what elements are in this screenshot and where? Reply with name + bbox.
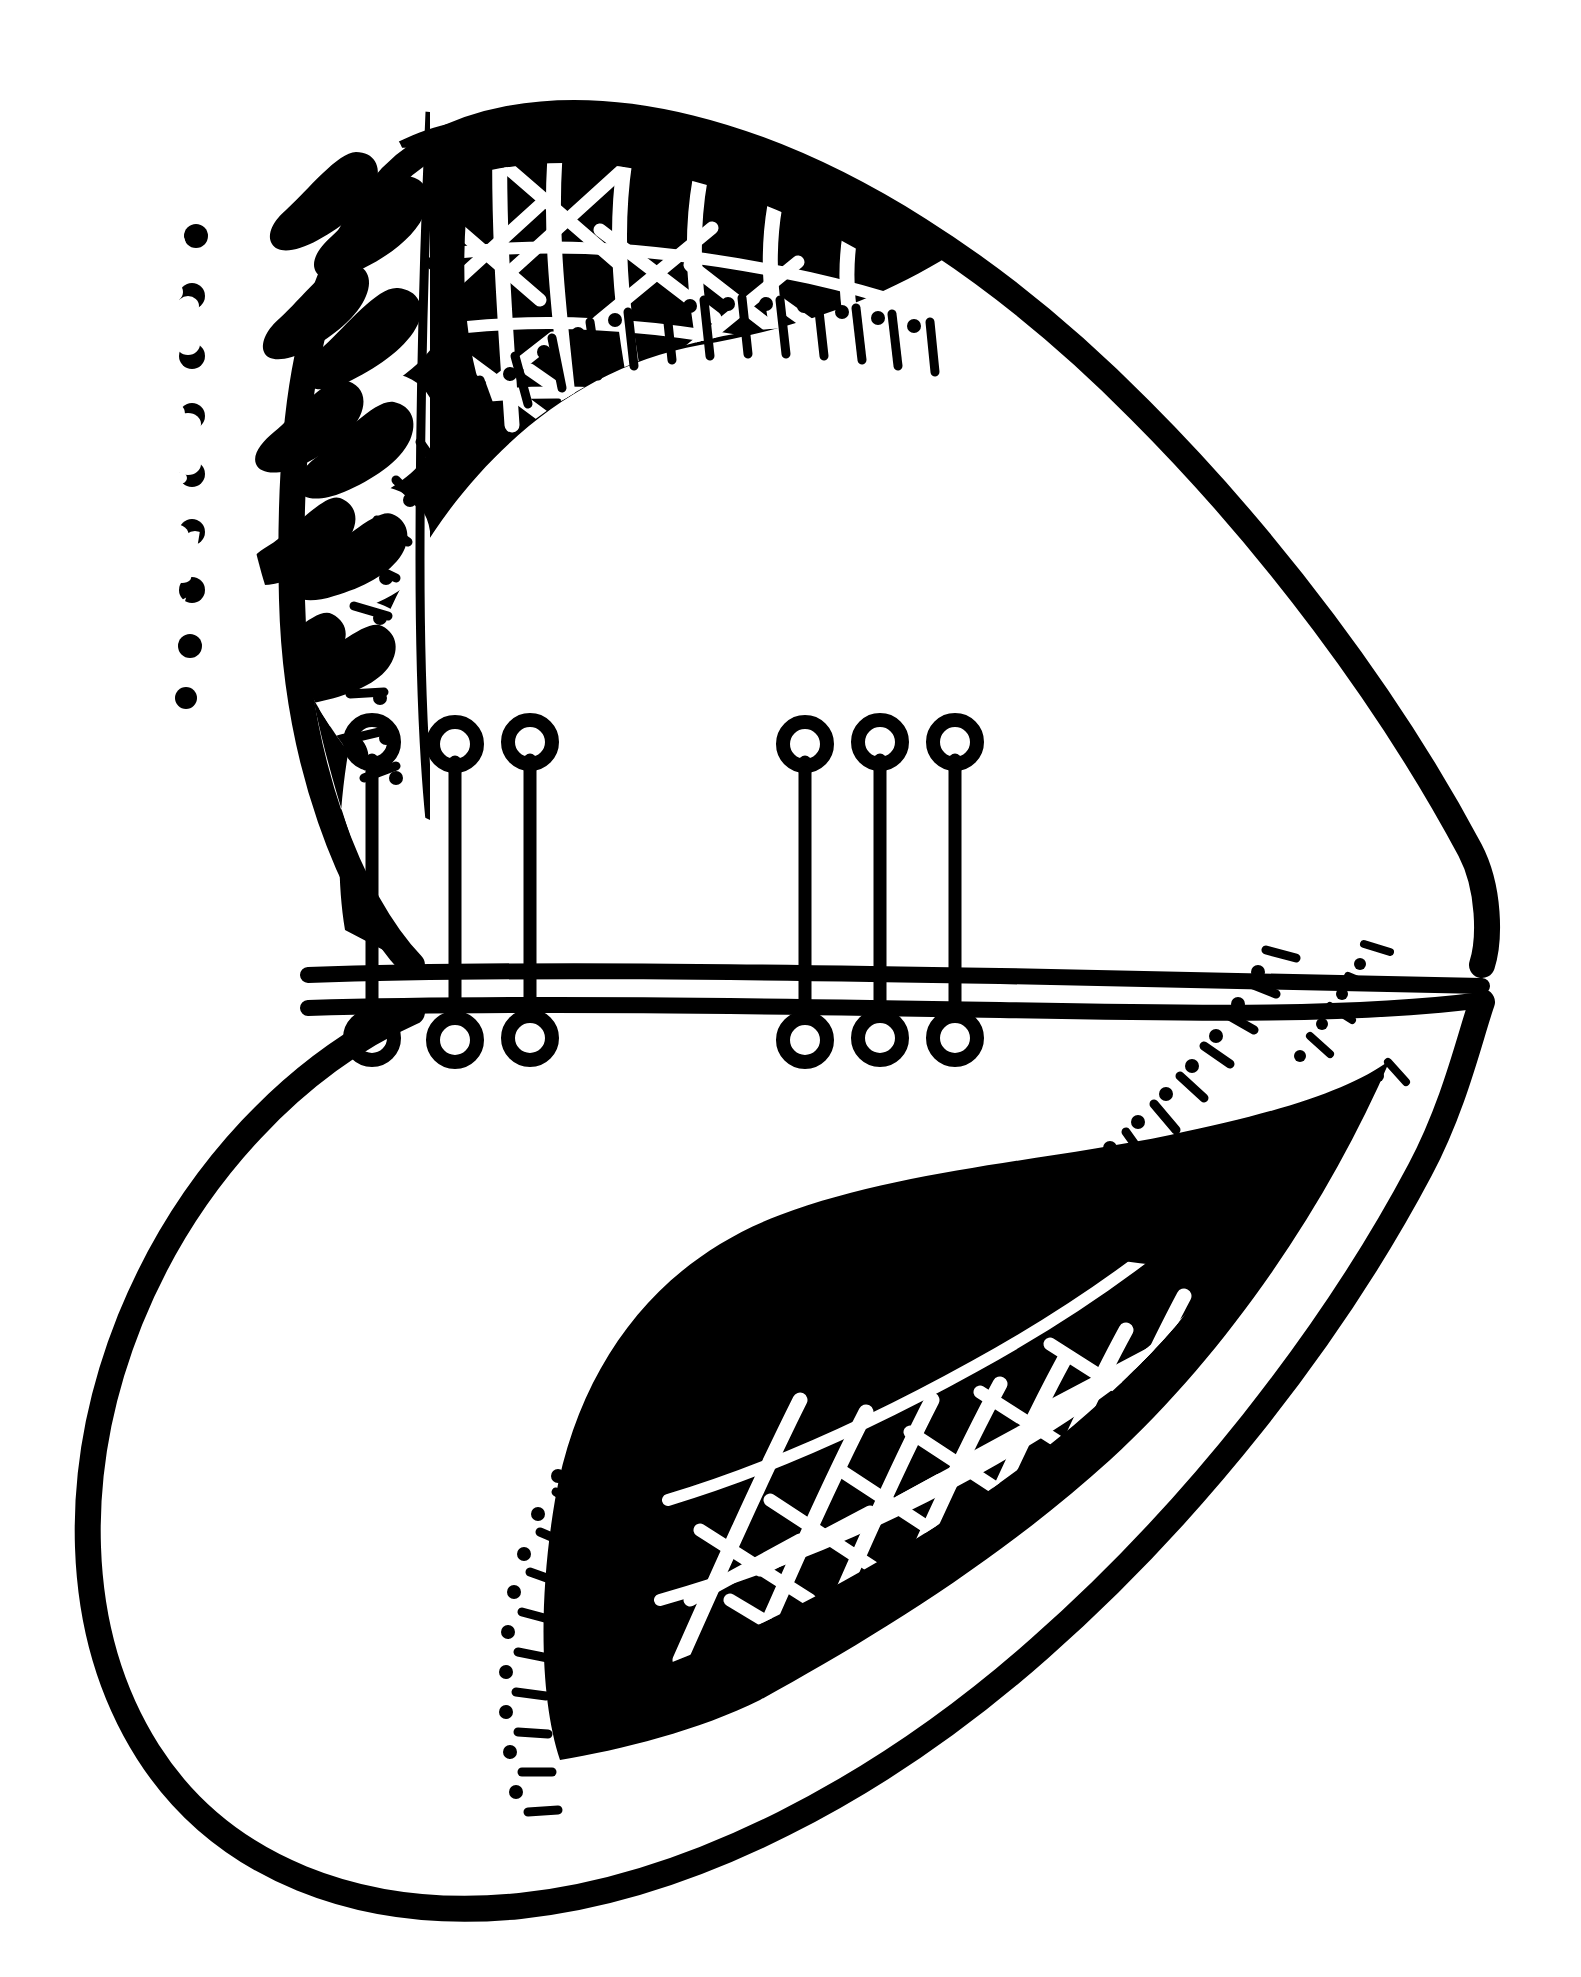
artboard: Stylized Bivalve Shell / Winged Seed Pod… (0, 0, 1581, 1977)
illustration-canvas (0, 0, 1581, 1977)
